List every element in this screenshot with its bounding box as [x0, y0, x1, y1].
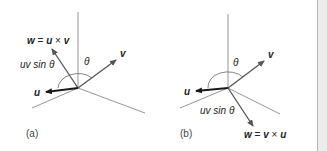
magnitude-label: uv sin θ [20, 59, 55, 70]
panel-a: w = u × v uv sin θ θ v u (a) [20, 12, 145, 139]
w-equation-label: w = u × v [27, 35, 71, 46]
panel-b: θ v u uv sin θ (b) w = v × u [180, 14, 286, 140]
v-label: v [268, 49, 275, 60]
vector-u-arrow [196, 88, 228, 91]
magnitude-label: uv sin θ [200, 105, 235, 116]
axis-lower-right [78, 88, 145, 113]
page-edge-gutter [317, 0, 327, 151]
vector-w-arrow [52, 49, 78, 88]
theta-label: θ [84, 56, 90, 67]
v-label: v [120, 48, 127, 59]
panel-caption: (b) [180, 128, 192, 139]
theta-label: θ [233, 57, 239, 68]
u-label: u [34, 87, 40, 98]
w-equation-label: w = v × u [244, 129, 286, 140]
u-label: u [184, 86, 190, 97]
panel-caption: (a) [26, 128, 38, 139]
